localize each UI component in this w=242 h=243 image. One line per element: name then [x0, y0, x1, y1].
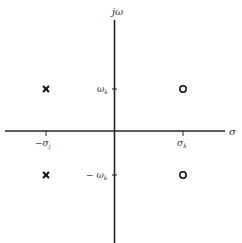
neg-omega-k-label: − ωk	[86, 170, 108, 181]
pole-lower	[43, 172, 49, 178]
sigma-k-label: σk	[177, 138, 187, 149]
pole-zero-diagram: jω σ ωk − ωk −σj σk	[0, 0, 242, 243]
zero-lower	[180, 172, 186, 178]
real-axis-label: σ	[229, 126, 237, 137]
pole-upper	[43, 86, 49, 92]
imaginary-axis-label: jω	[110, 6, 123, 17]
neg-sigma-j-label: −σj	[35, 138, 51, 150]
omega-k-label: ωk	[97, 84, 108, 95]
zero-upper	[180, 86, 186, 92]
